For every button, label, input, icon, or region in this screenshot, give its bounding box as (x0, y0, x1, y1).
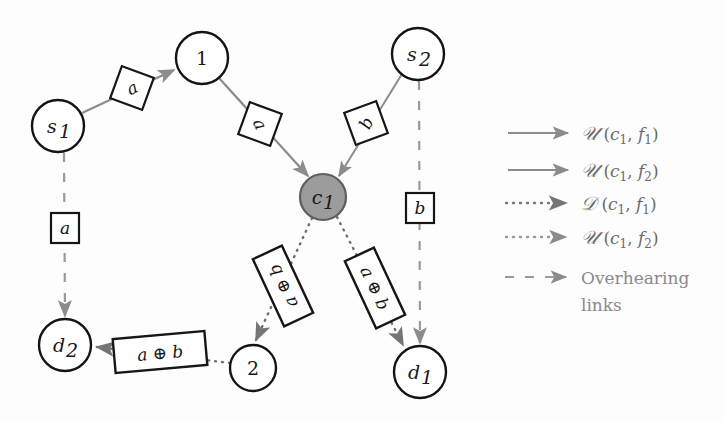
legend-item-d-c1-f1[interactable]: 𝒟 (c1, f1) (506, 192, 657, 217)
node-label-text: 2 (247, 357, 259, 379)
legend-label: 𝒰 (c1, f2) (581, 159, 659, 184)
packet-label-ab-c1-to-2: a ⊕ b (253, 246, 313, 327)
node-s2[interactable]: s 2 (392, 28, 444, 80)
node-label-subscript: 2 (418, 48, 431, 70)
node-label-subscript: 1 (59, 120, 71, 142)
legend-item-u-c1-f2[interactable]: 𝒰 (c1, f2) (508, 159, 659, 184)
packet-label-text: a (60, 218, 70, 238)
node-c1[interactable]: c 1 (300, 174, 346, 220)
figure-canvas: a a b a b a ⊕ b (0, 0, 725, 422)
packet-label-a-s1-to-1: a (100, 56, 164, 120)
node-1[interactable]: 1 (176, 32, 228, 84)
legend-item-u-c1-f1[interactable]: 𝒰 (c1, f1) (508, 122, 659, 147)
packet-label-a-overhear: a (51, 213, 79, 243)
node-label-subscript: 2 (65, 339, 78, 361)
node-label-text: s (407, 43, 417, 65)
node-s1[interactable]: s 1 (32, 100, 84, 152)
legend-item-u-c1-f2-dotted[interactable]: 𝒰 (c1, f2) (506, 226, 659, 251)
packet-label-text: a ⊕ b (136, 341, 184, 365)
node-label-text: s (47, 115, 57, 137)
packet-label-b-overhear: b (406, 193, 434, 223)
packet-label-ab-c1-to-d1: a ⊕ b (345, 248, 405, 329)
packet-label-text: b (415, 198, 426, 218)
node-label-text: c (312, 186, 323, 208)
packet-label-b-s2-to-c1: b (334, 91, 398, 155)
node-label-subscript: 1 (421, 366, 433, 388)
node-layer: s 1 1 s 2 c 1 d 2 (32, 28, 446, 398)
network-coding-diagram: a a b a b a ⊕ b (0, 0, 725, 422)
legend-label-line1: Overhearing (581, 268, 689, 288)
node-d2[interactable]: d 2 (39, 319, 91, 371)
legend-label: 𝒰 (c1, f2) (581, 226, 659, 251)
legend-label: 𝒰 (c1, f1) (581, 122, 659, 147)
node-2[interactable]: 2 (230, 345, 276, 391)
packet-label-ab-2-to-d2: a ⊕ b (113, 331, 208, 373)
legend-item-overhearing-links[interactable]: Overhearing links (505, 268, 689, 315)
node-label-text: d (53, 334, 65, 356)
legend-label-line2: links (581, 295, 622, 315)
node-label-text: d (408, 361, 420, 383)
node-d1[interactable]: d 1 (394, 346, 446, 398)
node-label-subscript: 1 (323, 191, 335, 213)
legend: 𝒰 (c1, f1) 𝒰 (c1, f2) 𝒟 (c1, f1) (505, 122, 689, 315)
node-label-text: 1 (196, 47, 208, 69)
legend-label: 𝒟 (c1, f1) (581, 192, 657, 217)
